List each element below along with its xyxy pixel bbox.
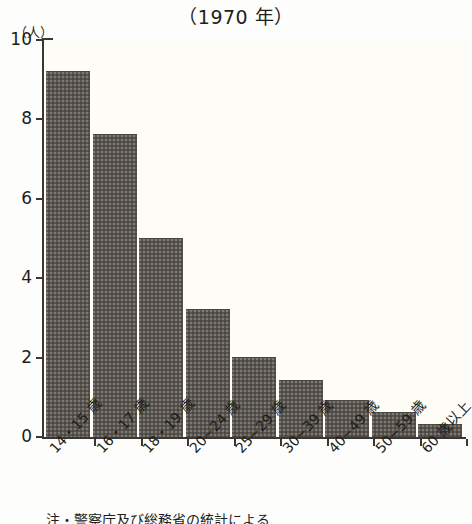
y-axis-tick xyxy=(36,436,44,438)
y-axis-tick-label: 8 xyxy=(2,108,32,128)
y-axis-line xyxy=(42,38,44,439)
bar-chart: （1970 年） （人） 0246810 14・15 歳16・17 歳18・19… xyxy=(0,0,472,524)
y-axis-tick-label: 6 xyxy=(2,188,32,208)
y-axis-tick-label: 10 xyxy=(2,29,32,49)
y-axis-tick xyxy=(36,277,44,279)
plot-area xyxy=(44,40,468,437)
y-axis-tick-label: 0 xyxy=(2,426,32,446)
bar xyxy=(93,134,137,437)
y-axis-tick xyxy=(36,357,44,359)
y-axis-tick xyxy=(36,39,44,41)
y-axis-tick-label: 2 xyxy=(2,347,32,367)
bar xyxy=(46,71,90,437)
chart-footnote: 注・警察庁及び総務省の統計による xyxy=(46,509,270,524)
y-axis-tick xyxy=(36,198,44,200)
y-axis-tick xyxy=(36,118,44,120)
chart-title: （1970 年） xyxy=(0,2,472,29)
x-axis-tick xyxy=(466,439,468,446)
y-axis-tick-label: 4 xyxy=(2,267,32,287)
y-axis-top-tick xyxy=(44,38,53,40)
